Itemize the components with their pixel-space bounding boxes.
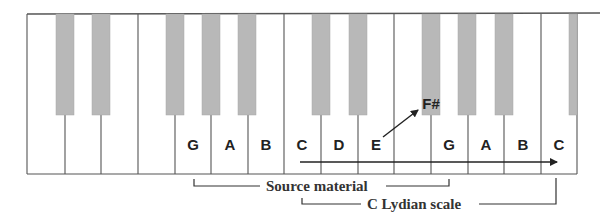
black-key [349, 14, 367, 115]
black-key [92, 14, 110, 115]
black-key [56, 14, 74, 115]
black-key [312, 14, 330, 115]
source-material-caption: Source material [266, 178, 368, 194]
source-material-bracket-right [386, 179, 449, 186]
c-lydian-scale-caption: C Lydian scale [367, 196, 461, 212]
note-label-e: E [361, 137, 391, 153]
note-label-c: C [544, 137, 574, 153]
black-key [569, 14, 577, 115]
note-label-b: B [508, 137, 538, 153]
source-material-bracket-left [194, 179, 260, 186]
note-label-g: G [434, 137, 464, 153]
arrow-e-to-f-sharp-icon [383, 110, 418, 137]
raised-note-label-f-sharp: F# [416, 96, 446, 112]
note-label-g: G [178, 137, 208, 153]
note-label-a: A [215, 137, 245, 153]
black-key [166, 14, 184, 115]
lydian-bracket-right [479, 178, 556, 204]
note-label-a: A [471, 137, 501, 153]
note-label-c: C [287, 137, 317, 153]
lydian-bracket-left [302, 198, 361, 204]
black-key [458, 14, 476, 115]
black-key [495, 14, 513, 115]
note-label-b: B [251, 137, 281, 153]
black-key [202, 14, 220, 115]
note-label-d: D [324, 137, 354, 153]
black-key [238, 14, 256, 115]
piano-diagram: GABCDEGABC F# Source material C Lydian s… [0, 0, 600, 224]
